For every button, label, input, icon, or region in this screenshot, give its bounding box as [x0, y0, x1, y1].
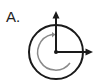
arrow-right-icon: [86, 49, 94, 56]
arrow-up-icon: [53, 11, 60, 19]
center-dot: [54, 50, 58, 54]
rotation-arrowhead-icon: [52, 32, 56, 38]
rotation-diagram: [0, 0, 96, 82]
